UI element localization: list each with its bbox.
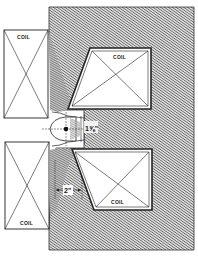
- coil-label: COIL: [20, 220, 33, 226]
- coil-left-top: COIL: [4, 30, 48, 118]
- pole-width-label: 2": [64, 187, 71, 194]
- coil-label: COIL: [111, 199, 124, 205]
- gap-height-label: 1⅝": [85, 125, 98, 132]
- beam-center-dot: [64, 127, 69, 132]
- coil-label: COIL: [113, 54, 126, 60]
- coil-left-bottom: COIL: [5, 142, 49, 229]
- coil-label: COIL: [17, 34, 30, 40]
- magnet-cross-section-diagram: 1⅝" 2" COIL COIL COIL: [0, 0, 198, 258]
